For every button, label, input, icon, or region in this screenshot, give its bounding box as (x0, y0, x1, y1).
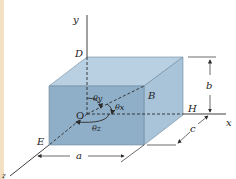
dim-c-label: c (190, 123, 196, 134)
theta-x-label: θx (115, 103, 125, 112)
point-D-label: D (74, 48, 83, 59)
dim-a-ext-right (121, 145, 144, 162)
x-axis-label: x (226, 117, 232, 128)
box-diagram: y x z D B O H E θy θx θz b c a (0, 0, 236, 179)
point-E-label: E (36, 136, 45, 147)
z-axis (10, 145, 49, 176)
dim-c-arrow-2 (198, 116, 208, 124)
point-H-label: H (187, 103, 197, 114)
dim-a-label: a (76, 150, 82, 161)
z-axis-label: z (1, 172, 6, 179)
theta-z-label: θz (92, 124, 102, 133)
point-B-label: B (147, 90, 155, 101)
theta-y-label: θy (93, 94, 103, 103)
y-axis-label: y (72, 14, 79, 25)
dim-b-label: b (206, 80, 212, 91)
dim-c-arrow (178, 132, 190, 143)
point-O-label: O (76, 110, 84, 121)
